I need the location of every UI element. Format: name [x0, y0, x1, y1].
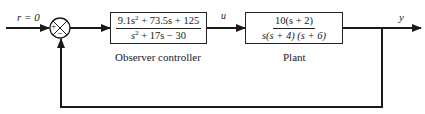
- controller-numerator: 9.1s2 + 73.5s + 125: [116, 15, 201, 29]
- input-label: r = 0: [17, 12, 40, 23]
- minus-sign: −: [57, 29, 62, 38]
- controller-block: 9.1s2 + 73.5s + 125 s2 + 17s − 30: [110, 12, 207, 44]
- plant-denominator: s(s + 4) (s + 6): [262, 29, 326, 42]
- plus-sign: +: [51, 22, 56, 31]
- plant-block: 10(s + 2) s(s + 4) (s + 6): [245, 12, 343, 44]
- controller-caption: Observer controller: [115, 51, 201, 63]
- plant-numerator: 10(s + 2): [273, 15, 315, 29]
- diagram-wires: [0, 0, 425, 114]
- control-signal-label: u: [221, 11, 226, 21]
- output-label: y: [399, 12, 404, 23]
- plant-caption: Plant: [283, 51, 306, 63]
- controller-denominator: s2 + 17s − 30: [131, 29, 186, 42]
